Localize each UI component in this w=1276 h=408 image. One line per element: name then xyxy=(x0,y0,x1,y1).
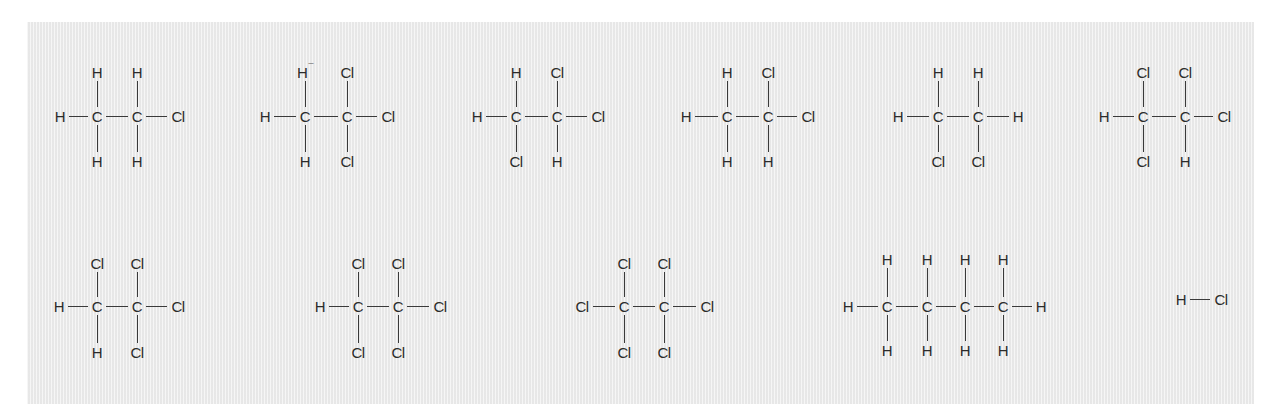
atom-h-label: H xyxy=(1036,298,1046,315)
atom-carbon: C xyxy=(132,299,142,314)
atom-h-label: H xyxy=(722,153,732,170)
atom-carbon: C xyxy=(882,299,892,314)
atom-cl-label: Cl xyxy=(391,344,404,361)
atom-cl: Cl xyxy=(657,256,670,271)
atom-carbon: C xyxy=(552,109,562,124)
atom-cl: Cl xyxy=(1217,109,1230,124)
single-bond xyxy=(137,272,138,297)
atom-carbon-label: C xyxy=(922,298,932,315)
atom-cl-label: Cl xyxy=(130,255,143,272)
atom-h-label: H xyxy=(132,64,142,81)
atom-h: H xyxy=(960,252,970,267)
atom-cl: Cl xyxy=(340,154,353,169)
atom-h-label: H xyxy=(681,108,691,125)
single-bond xyxy=(624,315,625,343)
atom-h: H xyxy=(552,154,562,169)
atom-cl-label: Cl xyxy=(657,255,670,272)
atom-cl: Cl xyxy=(700,299,713,314)
single-bond xyxy=(974,306,994,307)
single-bond xyxy=(896,306,918,307)
atom-h-label: H xyxy=(1176,291,1186,308)
atom-h: H xyxy=(92,65,102,80)
single-bond xyxy=(137,125,138,152)
single-bond xyxy=(624,272,625,297)
single-bond xyxy=(398,315,399,343)
single-bond xyxy=(97,315,98,343)
single-bond xyxy=(356,116,377,117)
atom-cl: Cl xyxy=(617,345,630,360)
atom-cl-label: Cl xyxy=(509,153,522,170)
atom-h-label: H xyxy=(54,298,64,315)
atom-carbon-label: C xyxy=(393,298,403,315)
atom-h-label: H xyxy=(92,344,102,361)
atom-h: H xyxy=(1099,109,1109,124)
atom-carbon: C xyxy=(342,109,352,124)
atom-carbon: C xyxy=(92,299,102,314)
single-bond xyxy=(887,315,888,341)
atom-carbon: C xyxy=(1138,109,1148,124)
single-bond xyxy=(137,315,138,343)
single-bond xyxy=(695,116,718,117)
atom-cl-label: Cl xyxy=(657,344,670,361)
single-bond xyxy=(978,125,979,152)
atom-carbon: C xyxy=(998,299,1008,314)
structural-formulas-canvas: HCHHCHHClHCH¯HCClClClHCHClCClHClHCHHCClH… xyxy=(0,0,1276,408)
atom-cl-label: Cl xyxy=(433,298,446,315)
atom-carbon-label: C xyxy=(973,108,983,125)
atom-cl: Cl xyxy=(509,154,522,169)
atom-cl-label: Cl xyxy=(130,344,143,361)
single-bond xyxy=(1143,81,1144,107)
atom-h: H xyxy=(882,252,892,267)
atom-cl-label: Cl xyxy=(700,298,713,315)
atom-cl-label: Cl xyxy=(550,64,563,81)
atom-h-label: H xyxy=(1180,153,1190,170)
atom-cl-label: Cl xyxy=(340,64,353,81)
atom-cl-label: Cl xyxy=(351,344,364,361)
atom-carbon-label: C xyxy=(92,298,102,315)
atom-carbon: C xyxy=(1180,109,1190,124)
atom-h: H xyxy=(998,343,1008,358)
single-bond xyxy=(516,81,517,107)
atom-h-label: H xyxy=(1013,108,1023,125)
atom-h: H xyxy=(92,154,102,169)
atom-h-label: H xyxy=(511,64,521,81)
atom-h: H xyxy=(92,345,102,360)
single-bond xyxy=(887,268,888,297)
atom-h: H xyxy=(763,154,773,169)
single-bond xyxy=(347,81,348,107)
atom-h: H xyxy=(922,252,932,267)
atom-cl: Cl xyxy=(130,345,143,360)
single-bond xyxy=(1185,125,1186,152)
atom-h-label: H xyxy=(55,108,65,125)
atom-h: H xyxy=(1180,154,1190,169)
single-bond xyxy=(486,116,507,117)
atom-h: H xyxy=(681,109,691,124)
atom-cl: Cl xyxy=(351,345,364,360)
single-bond xyxy=(1194,116,1213,117)
atom-cl-label: Cl xyxy=(340,153,353,170)
atom-carbon-label: C xyxy=(511,108,521,125)
atom-h: H xyxy=(54,299,64,314)
atom-carbon-label: C xyxy=(933,108,943,125)
single-bond xyxy=(347,125,348,152)
single-bond xyxy=(736,116,759,117)
atom-carbon-label: C xyxy=(998,298,1008,315)
single-bond xyxy=(978,81,979,107)
atom-h-label: H xyxy=(893,108,903,125)
atom-carbon-label: C xyxy=(1180,108,1190,125)
atom-carbon-label: C xyxy=(619,298,629,315)
atom-cl-label: Cl xyxy=(90,255,103,272)
atom-cl: Cl xyxy=(617,256,630,271)
atom-h: H¯ xyxy=(297,65,313,80)
atom-carbon: C xyxy=(763,109,773,124)
atom-h: H xyxy=(1036,299,1046,314)
single-bond xyxy=(68,306,88,307)
atom-carbon-label: C xyxy=(659,298,669,315)
single-bond xyxy=(1012,306,1032,307)
atom-cl-label: Cl xyxy=(1217,108,1230,125)
single-bond xyxy=(936,306,956,307)
single-bond xyxy=(557,125,558,152)
atom-cl: Cl xyxy=(550,65,563,80)
atom-h-label: H xyxy=(973,64,983,81)
atom-carbon: C xyxy=(353,299,363,314)
